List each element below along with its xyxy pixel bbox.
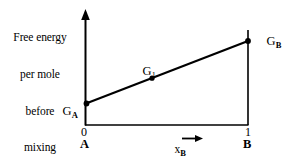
marker-g-b <box>245 38 251 44</box>
y-axis-arrowhead <box>81 9 90 20</box>
y-axis-title: Free energy per mole before mixing <box>2 7 78 157</box>
x-endpoint-b: B <box>243 138 251 151</box>
y-axis-title-line-2: per mole <box>2 68 78 80</box>
label-g-b-symbol: G <box>267 34 276 48</box>
marker-g-a <box>84 101 90 107</box>
x-endpoint-a: A <box>80 138 89 151</box>
label-g-a-symbol: G <box>63 104 72 118</box>
free-energy-line <box>86 41 248 104</box>
free-energy-before-mixing-figure: Free energy per mole before mixing GA G1… <box>0 0 287 157</box>
right-arrow-icon <box>182 134 204 143</box>
label-g-1-symbol: G <box>143 64 152 78</box>
label-g-a-subscript: A <box>72 110 78 120</box>
label-g-1-subscript: 1 <box>152 71 156 80</box>
label-g-b-subscript: B <box>276 40 282 50</box>
label-g-1: G1 <box>130 52 156 92</box>
y-axis-title-line-4: mixing <box>2 141 78 153</box>
label-g-a: GA <box>50 92 78 132</box>
label-g-b: GB <box>254 22 281 62</box>
x-axis-title-subscript: B <box>180 148 186 157</box>
y-axis-title-line-1: Free energy <box>2 31 78 43</box>
